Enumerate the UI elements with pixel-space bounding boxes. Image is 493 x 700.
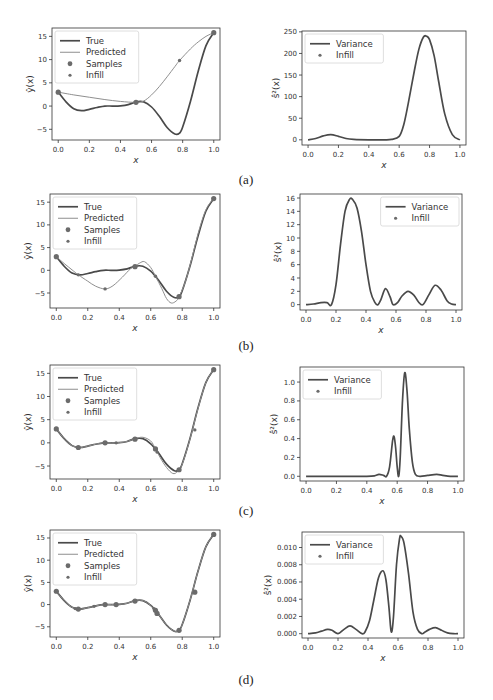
- y-tick-label: 5: [41, 579, 45, 587]
- chart-b-left: 0.00.20.40.60.81.0x−5051015ŷ(x)TruePredi…: [0, 184, 250, 334]
- legend-entry-variance: Variance: [412, 202, 449, 212]
- y-axis: 0.0000.0020.0040.0060.0080.010ŝ²(x): [263, 544, 303, 638]
- chart-d-right: 0.00.20.40.60.81.0x0.0000.0020.0040.0060…: [250, 520, 493, 670]
- y-axis: 050100150200250ŝ²(x): [271, 28, 302, 144]
- x-tick-label: 0.6: [390, 316, 402, 324]
- x-tick-label: 0.6: [392, 487, 404, 495]
- y-tick-label: 12: [286, 221, 295, 229]
- x-tick-label: 0.4: [114, 314, 126, 322]
- x-tick-label: 0.6: [394, 151, 406, 159]
- caption-b: (b): [216, 338, 276, 354]
- legend: TruePredictedSamplesInfill: [53, 368, 137, 420]
- y-axis-label: ŝ²(x): [263, 575, 273, 596]
- y-tick-label: 4: [291, 275, 296, 283]
- x-tick-label: 0.0: [51, 485, 62, 493]
- y-tick-label: 0: [291, 301, 295, 309]
- x-axis-label: x: [132, 155, 139, 165]
- y-axis-label: ŷ(x): [23, 242, 33, 260]
- x-tick-label: 0.6: [146, 146, 158, 154]
- legend-entry-predicted: Predicted: [84, 384, 124, 394]
- legend-entry-infill: Infill: [84, 236, 102, 246]
- x-tick-label: 1.0: [208, 146, 219, 154]
- x-tick-label: 0.6: [145, 485, 157, 493]
- x-axis-label: x: [378, 496, 385, 505]
- chart-a-left: 0.00.20.40.60.81.0x−5051015ŷ(x)TruePredi…: [0, 18, 250, 168]
- x-axis: 0.00.20.40.60.81.0x: [51, 308, 220, 333]
- legend-entry-predicted: Predicted: [84, 549, 124, 559]
- x-axis: 0.00.20.40.60.81.0x: [303, 145, 466, 168]
- y-axis: −5051015ŷ(x): [23, 199, 50, 298]
- y-tick-label: 0.008: [277, 561, 297, 569]
- y-tick-label: 10: [38, 56, 47, 64]
- y-tick-label: 16: [286, 195, 295, 203]
- legend-entry-predicted: Predicted: [84, 213, 124, 223]
- y-tick-label: 0: [41, 601, 45, 609]
- x-tick-label: 0.2: [84, 146, 95, 154]
- legend-entry-samples: Samples: [84, 225, 121, 235]
- y-tick-label: 250: [284, 28, 297, 36]
- x-tick-label: 0.8: [177, 146, 188, 154]
- legend-entry-infill: Infill: [86, 70, 104, 80]
- y-tick-label: −5: [35, 290, 45, 298]
- x-axis: 0.00.20.40.60.81.0x: [301, 481, 464, 505]
- y-tick-label: 0.010: [277, 544, 297, 552]
- x-tick-label: 0.4: [115, 146, 127, 154]
- x-axis-label: x: [131, 652, 138, 662]
- y-tick-label: −5: [35, 463, 45, 471]
- legend: VarianceInfill: [303, 370, 381, 399]
- y-tick-label: 15: [36, 370, 45, 378]
- y-axis-label: ŝ²(x): [269, 414, 279, 435]
- x-axis-label: x: [377, 325, 384, 334]
- y-axis-label: ŝ²(x): [273, 242, 283, 263]
- y-tick-label: 5: [41, 244, 45, 252]
- caption-c: (c): [216, 503, 276, 519]
- x-axis-label: x: [131, 323, 138, 333]
- x-axis-label: x: [380, 160, 387, 168]
- legend-entry-variance: Variance: [334, 375, 371, 385]
- y-tick-label: 10: [36, 393, 45, 401]
- x-tick-label: 0.2: [82, 485, 93, 493]
- legend-entry-infill: Infill: [336, 50, 354, 60]
- y-axis-label: ŷ(x): [23, 413, 33, 431]
- y-tick-label: 0.002: [277, 613, 297, 621]
- x-axis-label: x: [379, 653, 386, 663]
- y-tick-label: 0.4: [284, 435, 296, 443]
- x-tick-label: 0.8: [177, 643, 188, 651]
- y-tick-label: 0: [293, 136, 297, 144]
- x-tick-label: 0.2: [330, 316, 341, 324]
- y-tick-label: 10: [36, 557, 45, 565]
- y-axis: 0246810121416ŝ²(x): [273, 195, 300, 310]
- y-tick-label: 1.0: [284, 379, 295, 387]
- legend-entry-samples: Samples: [84, 396, 121, 406]
- x-tick-label: 0.4: [363, 151, 375, 159]
- y-tick-label: 0.004: [277, 596, 298, 604]
- x-tick-label: 0.2: [82, 314, 93, 322]
- x-axis: 0.00.20.40.60.81.0x: [51, 637, 220, 662]
- legend-entry-true: True: [83, 202, 102, 212]
- legend-entry-infill: Infill: [334, 386, 352, 396]
- y-tick-label: 100: [284, 93, 297, 101]
- y-tick-label: 6: [291, 261, 296, 269]
- y-tick-label: 10: [36, 221, 45, 229]
- x-tick-label: 1.0: [450, 316, 461, 324]
- y-tick-label: 0.8: [284, 397, 295, 405]
- x-tick-label: 1.0: [208, 314, 219, 322]
- y-tick-label: −5: [37, 126, 47, 134]
- legend: TruePredictedSamplesInfill: [53, 533, 137, 585]
- x-axis: 0.00.20.40.60.81.0x: [53, 140, 220, 165]
- y-tick-label: 2: [291, 288, 295, 296]
- legend-entry-variance: Variance: [336, 540, 373, 550]
- y-tick-label: 8: [291, 248, 295, 256]
- x-tick-label: 0.2: [333, 151, 344, 159]
- chart-b-right: 0.00.20.40.60.81.0x0246810121416ŝ²(x)Var…: [250, 184, 493, 334]
- y-tick-label: 5: [41, 416, 45, 424]
- x-tick-label: 0.0: [51, 314, 62, 322]
- caption-a: (a): [216, 172, 276, 188]
- y-axis: −5051015ŷ(x): [23, 534, 50, 631]
- legend-entry-infill: Infill: [412, 213, 430, 223]
- y-axis: −5051015ŷ(x): [23, 370, 50, 471]
- y-tick-label: 0: [41, 439, 45, 447]
- legend-entry-samples: Samples: [84, 561, 121, 571]
- y-tick-label: 0: [41, 267, 45, 275]
- x-tick-label: 0.4: [360, 316, 372, 324]
